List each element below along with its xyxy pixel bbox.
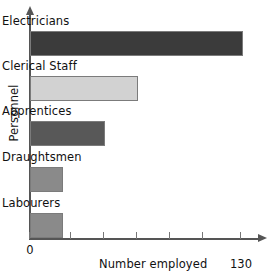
x-axis-arrow-icon — [258, 234, 267, 242]
bar-label-electricians: Electricians — [2, 14, 69, 28]
x-axis-tick — [169, 232, 170, 239]
bar-label-clerical-staff: Clerical Staff — [2, 59, 77, 73]
x-axis-tick — [103, 232, 104, 239]
bar-apprentices — [30, 121, 105, 146]
bar-label-draughtsmen: Draughtsmen — [2, 150, 82, 164]
bar-draughtsmen — [30, 167, 63, 192]
x-axis-line — [29, 238, 259, 240]
bar-clerical-staff — [30, 76, 138, 101]
bar-label-apprentices: Apprentices — [2, 104, 72, 118]
x-axis-tick — [136, 232, 137, 239]
x-axis-tick — [202, 232, 203, 239]
x-axis-tick — [240, 232, 241, 239]
x-axis-title: Number employed — [99, 257, 207, 271]
x-tick-label-0: 0 — [22, 243, 38, 257]
bar-labourers — [30, 213, 63, 238]
bar-electricians — [30, 31, 243, 56]
bar-chart: Personnel Electricians Clerical Staff Ap… — [0, 0, 276, 278]
x-axis-tick — [70, 232, 71, 239]
bar-label-labourers: Labourers — [2, 196, 60, 210]
x-tick-label-130: 130 — [223, 257, 259, 271]
